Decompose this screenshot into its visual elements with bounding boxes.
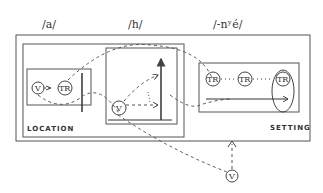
svg-text:TR: TR <box>239 75 251 84</box>
svg-text:V: V <box>34 84 41 93</box>
location-box <box>23 44 184 137</box>
svg-text:TR: TR <box>59 84 71 93</box>
diagram-canvas: V TR V TR TR TR V <box>0 0 323 193</box>
setting-caption: SETTING <box>270 124 311 132</box>
tr-node-setting-1: TR <box>206 72 220 86</box>
tr-node-location: TR <box>58 81 72 95</box>
svg-text:V: V <box>228 172 235 181</box>
v-node-h: V <box>112 101 126 115</box>
v-node-location: V <box>32 82 44 94</box>
svg-text:V: V <box>115 104 122 113</box>
tr-node-setting-3: TR <box>276 72 290 86</box>
location-caption: LOCATION <box>27 125 74 133</box>
v-node-external: V <box>226 170 238 182</box>
svg-text:TR: TR <box>277 75 289 84</box>
tr-node-setting-2: TR <box>238 72 252 86</box>
svg-text:TR: TR <box>207 75 219 84</box>
